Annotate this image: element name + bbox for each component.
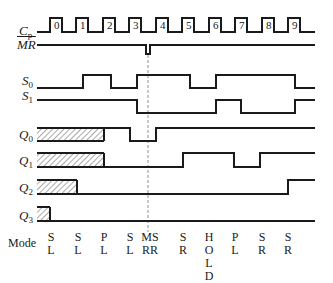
- mode-label: HOLD: [197, 231, 221, 283]
- mode-label-line: L: [66, 244, 90, 257]
- q1-undefined-hatch: [37, 153, 104, 167]
- signal-label-mr: MR: [17, 38, 36, 51]
- clock-pulse-number: 1: [80, 20, 86, 31]
- mode-label-line: R: [276, 244, 300, 257]
- q2-undefined-hatch: [37, 180, 77, 194]
- mode-label: PL: [92, 231, 116, 257]
- mode-label: SR: [171, 231, 195, 257]
- q3-undefined-hatch: [37, 207, 50, 221]
- clock-pulse-number: 5: [186, 20, 192, 31]
- mode-label: SR: [250, 231, 274, 257]
- waveform-cp: [37, 18, 315, 32]
- signal-label-q2: Q2: [19, 181, 33, 199]
- clock-pulse-number: 0: [54, 20, 60, 31]
- mode-label: MSRR: [138, 231, 162, 257]
- mode-label: PL: [223, 231, 247, 257]
- q0-undefined-hatch: [37, 128, 104, 141]
- clock-pulse-number: 2: [107, 20, 113, 31]
- clock-pulse-number: 8: [266, 20, 272, 31]
- signal-label-q0: Q0: [19, 128, 33, 146]
- mode-label-line: L: [223, 244, 247, 257]
- waveform-q2: [37, 180, 315, 194]
- clock-pulse-number: 6: [213, 20, 219, 31]
- mode-label-line: R: [171, 244, 195, 257]
- clock-pulse-number: 3: [133, 20, 139, 31]
- mode-label-line: R: [250, 244, 274, 257]
- mode-label: SL: [66, 231, 90, 257]
- signal-label-q1: Q1: [19, 154, 33, 172]
- clock-pulse-number: 9: [292, 20, 298, 31]
- clock-pulse-number: 4: [160, 20, 166, 31]
- mode-label: SR: [276, 231, 300, 257]
- mode-row-label: Mode: [8, 237, 36, 250]
- waveform-mr: [37, 45, 315, 54]
- mode-label-line: RR: [138, 244, 162, 257]
- clock-pulse-number: 7: [239, 20, 245, 31]
- waveform-s0: [37, 75, 315, 88]
- mode-label: SL: [39, 231, 63, 257]
- signal-label-s1: S1: [22, 89, 33, 107]
- mode-label-line: L: [39, 244, 63, 257]
- mode-label-line: D: [197, 270, 221, 283]
- waveform-s1: [37, 100, 315, 113]
- mode-label-line: L: [92, 244, 116, 257]
- signal-label-q3: Q3: [19, 209, 33, 227]
